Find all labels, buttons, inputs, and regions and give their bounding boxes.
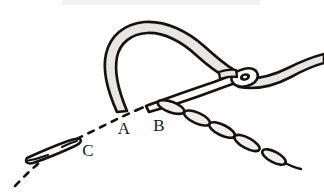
- scan-top-band: [62, 0, 260, 5]
- embroidery-diagram: .ink { fill: #17120f; } .ink-s { stroke:…: [0, 0, 324, 192]
- label-point-c: C: [82, 141, 93, 160]
- label-point-a: A: [118, 119, 131, 138]
- diagram-canvas: .ink { fill: #17120f; } .ink-s { stroke:…: [0, 0, 324, 192]
- label-point-b: B: [153, 116, 164, 135]
- thread-through-eye: [219, 70, 237, 79]
